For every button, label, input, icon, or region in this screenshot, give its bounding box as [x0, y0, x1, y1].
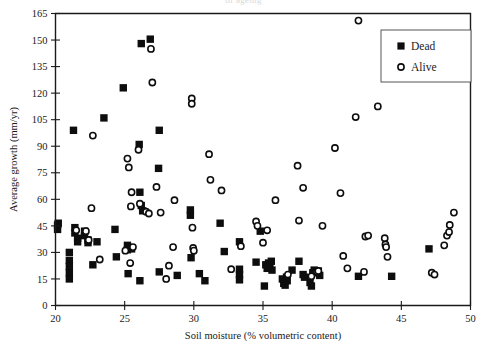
data-point-alive: [153, 184, 159, 190]
y-tick-label: 135: [32, 61, 48, 72]
legend-marker-alive: [398, 64, 404, 70]
data-point-alive: [189, 101, 195, 107]
data-point-dead: [136, 189, 143, 196]
data-point-alive: [128, 203, 134, 209]
y-tick-label: 45: [37, 221, 48, 232]
data-point-alive: [300, 185, 306, 191]
data-point-alive: [285, 271, 291, 277]
data-point-dead: [89, 261, 96, 268]
y-tick-label: 0: [42, 300, 47, 311]
x-tick-label: 35: [258, 313, 269, 324]
data-point-alive: [382, 235, 388, 241]
data-point-alive: [207, 177, 213, 183]
data-point-alive: [130, 244, 136, 250]
data-point-alive: [451, 209, 457, 215]
data-point-alive: [83, 228, 89, 234]
data-point-alive: [146, 210, 152, 216]
data-point-dead: [187, 212, 194, 219]
y-tick-label: 30: [37, 247, 48, 258]
x-tick-label: 25: [119, 313, 130, 324]
y-tick-label: 105: [32, 114, 48, 125]
data-point-alive: [332, 145, 338, 151]
data-point-dead: [295, 258, 302, 265]
x-tick-label: 40: [327, 313, 338, 324]
data-point-dead: [196, 270, 203, 277]
x-axis-title: Soil moisture (% volumetric content): [185, 330, 342, 342]
data-point-alive: [218, 187, 224, 193]
data-point-dead: [268, 266, 275, 273]
data-point-dead: [252, 258, 259, 265]
data-point-alive: [319, 223, 325, 229]
data-point-dead: [156, 127, 163, 134]
data-point-alive: [149, 79, 155, 85]
data-point-alive: [127, 260, 133, 266]
data-point-alive: [308, 273, 314, 279]
x-tick-label: 50: [465, 313, 476, 324]
legend-label-alive: Alive: [411, 61, 437, 73]
data-point-dead: [147, 35, 154, 42]
data-point-dead: [187, 254, 194, 261]
data-point-dead: [124, 270, 131, 277]
y-tick-label: 15: [37, 274, 48, 285]
data-point-alive: [315, 268, 321, 274]
data-point-alive: [97, 256, 103, 262]
y-axis-title: Average growth (mm/yr): [8, 107, 20, 212]
data-point-dead: [111, 226, 118, 233]
data-point-dead: [221, 248, 228, 255]
data-point-alive: [441, 242, 447, 248]
data-point-alive: [170, 244, 176, 250]
y-tick-label: 150: [32, 35, 48, 46]
data-point-dead: [155, 165, 162, 172]
data-point-alive: [344, 265, 350, 271]
data-point-alive: [365, 232, 371, 238]
data-point-alive: [88, 205, 94, 211]
y-tick-label: 165: [32, 8, 48, 19]
data-point-alive: [189, 225, 195, 231]
y-tick-label: 120: [32, 88, 48, 99]
data-point-dead: [136, 277, 143, 284]
data-point-alive: [375, 103, 381, 109]
data-point-alive: [260, 240, 266, 246]
y-tick-label: 75: [37, 167, 48, 178]
data-point-dead: [216, 220, 223, 227]
data-point-dead: [388, 273, 395, 280]
data-point-dead: [261, 282, 268, 289]
data-point-alive: [383, 244, 389, 250]
data-point-alive: [148, 46, 154, 52]
data-point-alive: [353, 114, 359, 120]
x-tick-label: 20: [50, 313, 61, 324]
data-point-alive: [163, 276, 169, 282]
y-tick-label: 60: [37, 194, 48, 205]
data-point-dead: [113, 253, 120, 260]
data-point-dead: [74, 238, 81, 245]
data-point-dead: [93, 238, 100, 245]
data-point-alive: [272, 197, 278, 203]
data-point-alive: [158, 209, 164, 215]
data-point-alive: [264, 227, 270, 233]
data-point-dead: [156, 268, 163, 275]
data-point-alive: [431, 271, 437, 277]
data-point-dead: [138, 40, 145, 47]
data-point-dead: [70, 127, 77, 134]
legend-marker-dead: [397, 42, 404, 49]
data-point-dead: [201, 277, 208, 284]
data-point-alive: [124, 156, 130, 162]
data-point-alive: [86, 237, 92, 243]
legend-box: [381, 30, 471, 82]
data-point-alive: [254, 223, 260, 229]
data-point-alive: [135, 147, 141, 153]
data-point-alive: [294, 163, 300, 169]
data-point-dead: [120, 84, 127, 91]
legend[interactable]: DeadAlive: [381, 30, 471, 82]
data-point-alive: [206, 151, 212, 157]
data-point-alive: [355, 17, 361, 23]
data-point-dead: [66, 249, 73, 256]
data-point-alive: [90, 133, 96, 139]
data-point-alive: [361, 269, 367, 275]
plot-canvas: 0153045607590105120135150165202530354045…: [0, 0, 487, 342]
data-point-alive: [128, 189, 134, 195]
data-point-alive: [228, 266, 234, 272]
x-tick-label: 30: [189, 313, 200, 324]
data-point-alive: [191, 248, 197, 254]
data-point-alive: [73, 227, 79, 233]
